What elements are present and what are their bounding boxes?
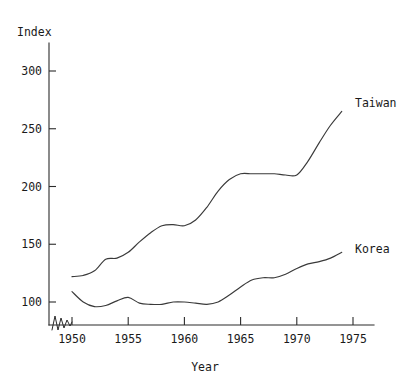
x-tick-label: 1975 [339,332,367,346]
series-line-korea [72,252,342,306]
x-tick-label: 1965 [227,332,255,346]
y-tick-label: 300 [21,64,42,78]
x-tick-label-group: 195019551960196519701975 [58,332,367,346]
axis-break-icon [52,316,72,330]
y-tick-label-group: 100150200250300 [21,64,42,309]
y-tick-group [49,71,56,302]
x-axis-title: Year [191,360,219,374]
y-tick-label: 200 [21,180,42,194]
series-line-taiwan [72,111,342,276]
x-tick-group [72,317,353,325]
y-axis-title: Index [17,25,52,39]
series-group [72,111,342,306]
series-label-group: TaiwanKorea [355,96,397,256]
y-tick-label: 150 [21,237,42,251]
x-tick-label: 1950 [58,332,86,346]
x-tick-label: 1955 [114,332,142,346]
series-label-taiwan: Taiwan [355,96,397,110]
x-tick-label: 1970 [283,332,311,346]
y-tick-label: 100 [21,295,42,309]
line-chart: 100150200250300 195019551960196519701975… [0,0,406,387]
x-tick-label: 1960 [171,332,199,346]
y-tick-label: 250 [21,122,42,136]
series-label-korea: Korea [355,242,390,256]
chart-container: 100150200250300 195019551960196519701975… [0,0,406,387]
